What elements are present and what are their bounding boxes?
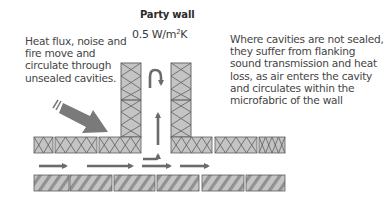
insulated-block xyxy=(259,137,285,153)
hatched-block xyxy=(114,175,155,191)
insulated-block xyxy=(34,137,53,153)
hatched-block xyxy=(202,175,244,191)
heat-flux-arrow-icon xyxy=(53,100,108,133)
insulated-block xyxy=(55,137,97,153)
insulated-block xyxy=(215,137,257,153)
party-wall-right-column xyxy=(171,63,191,137)
insulated-block xyxy=(171,137,212,153)
airflow-elbow-up-icon xyxy=(143,155,158,159)
hatched-block xyxy=(34,175,69,191)
hatched-block xyxy=(157,175,199,191)
party-wall-left-column xyxy=(121,63,141,137)
upper-block-row xyxy=(34,137,285,153)
insulated-block xyxy=(99,137,141,153)
hatched-block xyxy=(70,175,112,191)
hatched-block xyxy=(246,175,285,191)
airflow-u-turn-icon xyxy=(150,70,161,88)
lower-block-row xyxy=(34,175,285,191)
